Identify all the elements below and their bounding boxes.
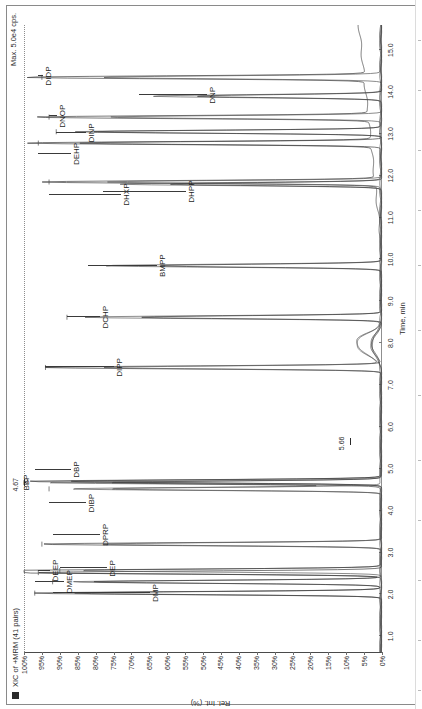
peak-label-dprp: DPRP	[102, 523, 110, 545]
peak-leader-line	[45, 366, 114, 367]
peak-leader-line	[49, 115, 57, 116]
y-tick-label: 35%	[253, 656, 260, 678]
y-tick-label: 50%	[200, 656, 207, 678]
time-annotation-label: 5.66	[338, 436, 345, 450]
y-tick-label: 85%	[74, 656, 81, 678]
peak-label-dmep: DMEP	[66, 570, 74, 593]
x-tick-label: 8.0	[387, 328, 394, 358]
peak-leader-line	[49, 193, 121, 194]
peak-leader-line	[56, 132, 85, 133]
scan-edge-artifact	[415, 0, 422, 709]
x-tick-label: 6.0	[387, 411, 394, 441]
peak-label-dmp: DMP	[152, 584, 160, 602]
peak-label-dnop: DNOP	[59, 104, 67, 127]
plot-area: 0%5%10%15%20%25%30%35%40%45%50%55%60%65%…	[24, 25, 382, 653]
y-tick-label: 10%	[343, 656, 350, 678]
peak-leader-line	[38, 569, 49, 570]
x-tick-label: 3.0	[387, 537, 394, 567]
peak-label-didp: DIDP	[45, 66, 53, 85]
x-tick-label: 14.0	[387, 77, 394, 107]
peak-leader-line	[67, 316, 100, 317]
time-annotation-label: 4.67	[12, 477, 19, 491]
y-tick-label: 30%	[271, 656, 278, 678]
chromatogram-traces	[24, 25, 382, 653]
x-tick-label: 5.0	[387, 453, 394, 483]
peak-leader-line	[49, 502, 86, 503]
peak-leader-line	[103, 190, 186, 191]
peak-label-dipp: DIPP	[116, 358, 124, 377]
chromatogram-canvas: XIC of +MRM (41 pairs) Max. 5.0e4 cps. R…	[6, 5, 416, 705]
peak-leader-line	[88, 264, 157, 265]
x-tick-label: 15.0	[387, 35, 394, 65]
y-tick-label: 65%	[146, 656, 153, 678]
peak-leader-line	[139, 94, 208, 95]
peak-label-dhxp: DHXP	[123, 183, 131, 205]
y-tick-label: 80%	[92, 656, 99, 678]
peak-label-deep: DEEP	[52, 559, 60, 581]
x-tick-label: 1.0	[387, 621, 394, 651]
y-tick-label: 70%	[128, 656, 135, 678]
y-tick-label: 55%	[182, 656, 189, 678]
y-tick-label: 45%	[217, 656, 224, 678]
peak-label-dhpp: DHPP	[188, 180, 196, 202]
y-tick-label: 100%	[21, 656, 28, 678]
chart-title: XIC of +MRM (41 pairs)	[11, 608, 20, 687]
y-tick-label: 5%	[361, 656, 368, 678]
peak-label-dnp: DNP	[209, 86, 217, 103]
time-annotation-tick	[350, 437, 351, 444]
peak-leader-line	[60, 567, 107, 568]
peak-label-dchp: DCHP	[102, 305, 110, 328]
peak-label-dehp: DEHP	[73, 142, 81, 164]
y-tick-label: 15%	[325, 656, 332, 678]
legend-swatch-icon	[12, 692, 19, 699]
y-axis-label: Rel. Int. (%)	[166, 698, 256, 707]
peak-label-dinp: DINP	[88, 123, 96, 142]
y-tick-label: 0%	[379, 656, 386, 678]
x-tick-label: 2.0	[387, 579, 394, 609]
x-tick-label: 7.0	[387, 370, 394, 400]
x-tick-label: 13.0	[387, 118, 394, 148]
peak-label-dibp: DIBP	[88, 493, 96, 512]
y-tick-label: 95%	[38, 656, 45, 678]
peak-label-dep: DEP	[109, 560, 117, 576]
x-tick-label: 4.0	[387, 495, 394, 525]
time-annotation-tick	[24, 479, 25, 486]
chart-header: XIC of +MRM (41 pairs)	[9, 608, 22, 699]
y-tick-label: 20%	[307, 656, 314, 678]
chromatogram-figure: XIC of +MRM (41 pairs) Max. 5.0e4 cps. R…	[0, 0, 422, 709]
peak-label-bmpp: BMPP	[159, 254, 167, 277]
x-tick-label: 11.0	[387, 202, 394, 232]
peak-label-dbp: DBP	[73, 461, 81, 477]
y-tick-label: 25%	[289, 656, 296, 678]
y-tick-label: 60%	[164, 656, 171, 678]
x-axis-label: Time, min	[398, 302, 407, 335]
y-tick-mark	[382, 652, 383, 655]
peak-leader-line	[38, 75, 42, 76]
x-tick-label: 12.0	[387, 160, 394, 190]
x-tick-label: 9.0	[387, 286, 394, 316]
screenshot-root: XIC of +MRM (41 pairs) Max. 5.0e4 cps. R…	[0, 0, 422, 709]
peak-leader-line	[53, 533, 100, 534]
y-tick-label: 40%	[235, 656, 242, 678]
x-tick-label: 10.0	[387, 244, 394, 274]
chart-max-intensity-label: Max. 5.0e4 cps.	[9, 13, 18, 66]
y-tick-label: 75%	[110, 656, 117, 678]
y-tick-label: 90%	[56, 656, 63, 678]
peak-leader-line	[35, 468, 72, 469]
peak-leader-line	[38, 152, 71, 153]
